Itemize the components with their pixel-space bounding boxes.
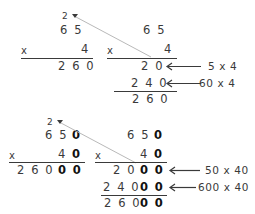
partial-product-2-label: 60 x 4 xyxy=(199,77,236,90)
partial-product-1-zeros: 0 0 xyxy=(140,164,164,177)
carry-digit: 2 xyxy=(62,10,68,23)
partial-product-1: 2 0 xyxy=(141,60,164,73)
multiplier: 4 xyxy=(58,148,67,161)
multiplier: 4 xyxy=(140,148,149,161)
multiplier: 4 xyxy=(164,43,173,56)
partial-product-1-label: 5 x 4 xyxy=(208,60,237,73)
partial-product-1-arrow-icon xyxy=(163,62,203,71)
partial-product-2-arrow-icon xyxy=(166,183,198,192)
partial-product-1-arrow-icon xyxy=(166,166,202,175)
multiplier-appended-zero: 0 xyxy=(154,148,163,161)
partial-product-1: 2 0 xyxy=(113,164,136,177)
carry-marker-triangle-icon xyxy=(57,120,63,124)
partial-product-2-label: 600 x 40 xyxy=(198,181,249,194)
multiplicand: 6 5 xyxy=(45,129,68,142)
worksheet-canvas: 2 6 5 x 4 2 6 0 6 5 x 4 2 0 5 x 4 2 4 0 … xyxy=(0,0,255,214)
multiplicand: 6 5 xyxy=(60,24,83,37)
multiply-operator: x xyxy=(9,149,16,162)
multiply-operator: x xyxy=(95,149,102,162)
product: 2 6 0 xyxy=(17,164,54,177)
multiply-operator: x xyxy=(107,44,114,57)
total-product: 2 6 0 xyxy=(132,93,169,106)
total-product-zeros: 0 0 xyxy=(140,197,164,210)
carry-marker-triangle-icon xyxy=(72,14,78,18)
multiplier-appended-zero: 0 xyxy=(72,148,81,161)
product: 2 6 0 xyxy=(58,60,95,73)
multiplier: 4 xyxy=(81,43,90,56)
partial-product-1-label: 50 x 40 xyxy=(205,164,249,177)
multiply-operator: x xyxy=(21,44,28,57)
product-appended-zeros: 0 0 xyxy=(58,164,82,177)
partial-product-2-zeros: 0 0 xyxy=(140,181,164,194)
multiplicand: 6 5 xyxy=(127,129,150,142)
partial-product-2: 2 4 0 xyxy=(103,181,140,194)
total-product: 2 6 0 xyxy=(104,197,141,210)
multiplicand: 6 5 xyxy=(143,24,166,37)
multiplicand-appended-zero: 0 xyxy=(72,129,81,142)
partial-product-2-arrow-icon xyxy=(163,79,203,88)
multiplicand-appended-zero: 0 xyxy=(154,129,163,142)
